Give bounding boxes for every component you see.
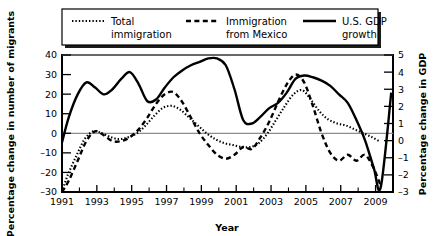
x-tick-label: 2009 [363, 196, 387, 207]
y-left-tick-label: –20 [40, 167, 57, 178]
y-right-tick-labels: 543210–1–2–3 [398, 49, 409, 197]
y-right-tick-label: 5 [398, 49, 404, 60]
y-right-tick-label: –3 [398, 186, 409, 197]
plot-frame [62, 55, 393, 192]
y-left-tick-label: –10 [40, 147, 57, 158]
y-right-tick-label: 0 [398, 135, 404, 146]
x-tick-label: 1999 [189, 196, 213, 207]
legend-label-us-gdp-growth-line1: U.S. GDP [342, 16, 387, 27]
y-left-tick-label: 30 [45, 69, 57, 80]
legend-label-us-gdp-growth-line2: growth [342, 29, 377, 40]
y-left-tick-label: 10 [45, 108, 57, 119]
y-right-tick-label: 3 [398, 84, 404, 95]
y-right-tick-label: 2 [398, 101, 404, 112]
y-right-tick-label: –2 [398, 169, 409, 180]
y-left-axis-title: Percentage change in number of migrants [5, 10, 16, 236]
x-axis-title: Year [214, 222, 239, 233]
y-right-tick-label: 1 [398, 118, 404, 129]
x-tick-labels: 1991199319951997199920012003200520072009 [50, 196, 388, 207]
legend-label-immigration-from-mexico-line2: from Mexico [226, 29, 287, 40]
legend-label-immigration-from-mexico-line1: Immigration [226, 16, 287, 27]
y-left-tick-label: 20 [45, 89, 57, 100]
x-tick-label: 1991 [50, 196, 74, 207]
legend-label-total-immigration-line2: immigration [111, 29, 172, 40]
x-tick-label: 1995 [120, 196, 144, 207]
immigration-gdp-chart: Total immigration Immigration from Mexic… [0, 0, 437, 236]
y-right-axis-title: Percentage change in GDP [417, 53, 428, 196]
y-left-tick-label: 40 [45, 49, 57, 60]
x-tick-label: 2005 [294, 196, 318, 207]
x-tick-label: 2003 [259, 196, 283, 207]
y-left-tick-labels: 403020100–10–20–30 [40, 49, 57, 197]
x-tick-label: 1993 [85, 196, 109, 207]
x-tick-label: 2001 [224, 196, 248, 207]
legend-label-total-immigration-line1: Total [110, 16, 134, 27]
y-right-tick-label: 4 [398, 67, 404, 78]
y-right-tick-label: –1 [398, 152, 409, 163]
legend-box [62, 9, 378, 45]
x-tick-label: 2007 [329, 196, 353, 207]
y-left-tick-label: 0 [51, 128, 57, 139]
x-tick-label: 1997 [154, 196, 178, 207]
plot-area [62, 55, 393, 192]
